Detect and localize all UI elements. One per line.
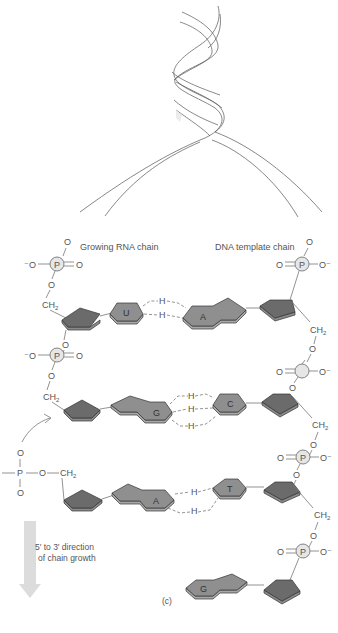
dna-phosphate-4: P O O⁻	[277, 544, 332, 580]
dna-phosphate-1: O P O O⁻ CH2 O	[276, 237, 331, 362]
base-label-g: G	[153, 408, 160, 418]
ch2-group: CH2	[312, 420, 329, 431]
dna-nucleotide-t: T	[213, 479, 300, 503]
rna-nucleotide-u: U H H	[62, 296, 186, 340]
rna-phosphate-1: O ⁻O P O O CH2	[24, 237, 83, 318]
base-label-u: U	[123, 308, 130, 318]
oxygen-atom: O	[17, 488, 24, 498]
panel-label: (c)	[162, 596, 172, 606]
base-label-c: C	[227, 399, 234, 409]
ch2-group: CH2	[42, 300, 59, 311]
base-adenine	[112, 484, 174, 508]
base-label-a: A	[153, 496, 159, 506]
rna-phosphate-2: O ⁻O P O O CH2	[24, 340, 83, 410]
oxygen-atom: O	[276, 260, 283, 270]
hydrogen-atom: H	[191, 506, 198, 516]
oxygen-atom: O	[48, 371, 55, 381]
oxygen-minus-atom: O⁻	[320, 453, 332, 463]
hydrogen-atom: H	[159, 310, 166, 320]
oxygen-atom: O	[289, 383, 296, 393]
hydrogen-atom: H	[188, 391, 195, 401]
oxygen-atom: O	[277, 453, 284, 463]
oxygen-minus-atom: O⁻	[319, 260, 331, 270]
dna-nucleotide-a: A	[183, 298, 295, 329]
dna-nucleotide-c: C	[213, 394, 298, 417]
phosphorus-atom: P	[17, 468, 23, 478]
oxygen-atom: O	[62, 340, 69, 350]
rna-nucleotide-g: G H H H	[64, 391, 216, 431]
oxygen-atom: O	[39, 468, 46, 478]
phosphorus-atom: P	[54, 351, 60, 361]
dna-nucleotide-g: G	[186, 574, 300, 604]
incoming-phosphate: O P O CH2 O	[2, 448, 77, 500]
rna-chain-label: Growing RNA chain	[80, 242, 159, 252]
oxygen-atom: O	[277, 547, 284, 557]
oxygen-atom: O	[306, 237, 313, 247]
dna-chain-label: DNA template chain	[215, 242, 295, 252]
oxygen-atom: O	[76, 260, 83, 270]
oxygen-minus-atom: O⁻	[320, 547, 332, 557]
ribose-sugar	[64, 400, 100, 418]
ch2-group: CH2	[60, 468, 77, 479]
base-label-g: G	[200, 584, 207, 594]
phosphorus-atom: P	[300, 547, 306, 557]
oxygen-atom: O	[76, 351, 83, 361]
oxygen-atom: O	[310, 531, 317, 541]
rna-nucleotide-a: A H H	[64, 484, 218, 516]
oxygen-atom: O	[293, 470, 300, 480]
phosphate-circle	[295, 364, 309, 378]
oxygen-atom: O	[310, 440, 317, 450]
oxygen-atom: O	[276, 367, 283, 377]
ch2-group: CH2	[43, 392, 60, 403]
oxygen-atom: O	[48, 280, 55, 290]
phosphorus-atom: P	[300, 453, 306, 463]
base-label-t: T	[227, 484, 233, 494]
phosphorus-atom: P	[299, 260, 305, 270]
incoming-nucleotide-arrow	[22, 414, 51, 442]
direction-label-line1: 5′ to 3′ direction	[35, 542, 94, 552]
base-guanine	[111, 396, 172, 420]
hydrogen-atom: H	[191, 487, 198, 497]
oxygen-minus-atom: ⁻O	[24, 351, 36, 361]
oxygen-minus-atom: O⁻	[319, 367, 331, 377]
oxygen-minus-atom: ⁻O	[24, 260, 36, 270]
oxygen-atom: O	[17, 448, 24, 458]
deoxyribose-sugar	[264, 580, 300, 601]
rna-transcription-diagram: Growing RNA chain DNA template chain O ⁻…	[0, 0, 338, 633]
dna-double-helix	[80, 6, 322, 217]
direction-label-line2: of chain growth	[38, 553, 96, 563]
oxygen-atom: O	[64, 237, 71, 247]
hydrogen-atom: H	[188, 421, 195, 431]
hydrogen-atom: H	[159, 296, 166, 306]
base-label-a: A	[200, 312, 206, 322]
ch2-group: CH2	[314, 510, 331, 521]
oxygen-atom: O	[309, 344, 316, 354]
phosphorus-atom: P	[54, 260, 60, 270]
hydrogen-atom: H	[188, 404, 195, 414]
ch2-group: CH2	[310, 325, 327, 336]
